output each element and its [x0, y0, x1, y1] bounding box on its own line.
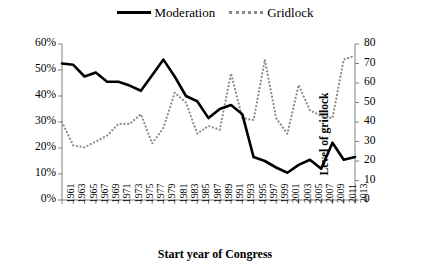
x-tick-label: 2007	[325, 184, 335, 203]
right-tick-label: 30	[364, 135, 376, 147]
x-tick-label: 1963	[77, 184, 87, 203]
x-tick-label: 2011	[348, 184, 358, 203]
x-tick-label: 1967	[100, 184, 110, 203]
x-tick-label: 1995	[258, 184, 268, 203]
left-tick-label: 10%	[35, 167, 56, 179]
right-axis-ticks	[355, 44, 359, 200]
series-line-moderation	[62, 60, 355, 173]
x-tick-label: 2009	[336, 184, 346, 203]
right-tick-label: 50	[364, 96, 376, 108]
left-tick-label: 50%	[35, 63, 56, 75]
x-tick-label: 1991	[235, 184, 245, 203]
x-tick-label: 1965	[89, 184, 99, 203]
x-tick-label: 1983	[190, 184, 200, 203]
right-tick-label: 80	[364, 37, 376, 49]
x-tick-label: 2005	[314, 184, 324, 203]
left-tick-label: 0%	[41, 193, 56, 205]
x-tick-label: 1977	[156, 184, 166, 203]
left-tick-label: 30%	[35, 115, 56, 127]
x-tick-label: 1997	[269, 184, 279, 203]
x-tick-label: 1971	[122, 184, 132, 203]
x-tick-label: 1993	[246, 184, 256, 203]
x-tick-label: 1999	[280, 184, 290, 203]
left-tick-label: 60%	[35, 37, 56, 49]
right-tick-label: 20	[364, 154, 376, 166]
x-tick-label: 1979	[167, 184, 177, 203]
x-tick-label: 1987	[213, 184, 223, 203]
right-tick-label: 60	[364, 76, 376, 88]
right-tick-label: 70	[364, 57, 376, 69]
x-tick-label: 1985	[201, 184, 211, 203]
x-tick-label: 1973	[134, 184, 144, 203]
left-tick-label: 20%	[35, 141, 56, 153]
series-line-gridlock	[62, 56, 355, 148]
x-tick-label: 2001	[291, 184, 301, 203]
x-tick-label: 1969	[111, 184, 121, 203]
left-tick-label: 40%	[35, 89, 56, 101]
x-tick-label: 2003	[303, 184, 313, 203]
x-tick-label: 1989	[224, 184, 234, 203]
right-tick-label: 40	[364, 115, 376, 127]
x-tick-label: 1961	[66, 184, 76, 203]
x-tick-label: 2013	[359, 184, 369, 203]
x-tick-label: 1975	[145, 184, 155, 203]
x-tick-label: 1981	[179, 184, 189, 203]
chart-figure: Moderation Gridlock Share of moderates i…	[0, 0, 430, 268]
